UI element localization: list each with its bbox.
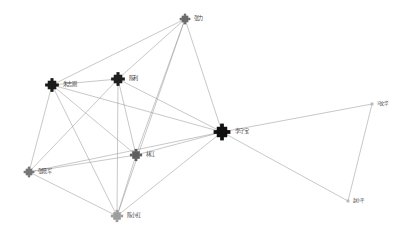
- graph-edge: [117, 79, 118, 216]
- graph-edge: [52, 85, 222, 132]
- graph-node[interactable]: 李守宝: [211, 121, 233, 143]
- node-marker-icon: [369, 101, 375, 107]
- node-marker-icon: [109, 70, 127, 88]
- graph-edge: [117, 132, 222, 216]
- graph-edge: [52, 85, 117, 216]
- graph-node[interactable]: 林江: [128, 147, 144, 163]
- network-graph-canvas: 张力朱志刚陈利李守宝林江张晓军陈小红马文华赵小平: [0, 0, 404, 244]
- graph-edge: [136, 19, 185, 155]
- graph-node[interactable]: 张晓军: [22, 165, 36, 179]
- graph-edge: [52, 85, 136, 155]
- graph-node[interactable]: 赵小平: [345, 198, 351, 204]
- graph-edge: [185, 19, 222, 132]
- graph-edge: [222, 132, 348, 201]
- node-marker-icon: [109, 208, 125, 224]
- node-label: 陈小红: [127, 213, 141, 218]
- node-label: 朱志刚: [63, 82, 77, 87]
- graph-edge: [118, 79, 222, 132]
- graph-node[interactable]: 朱志刚: [43, 76, 61, 94]
- edge-layer: [0, 0, 404, 244]
- graph-node[interactable]: 陈利: [109, 70, 127, 88]
- node-label: 张晓军: [38, 169, 52, 174]
- node-label: 李守宝: [235, 129, 249, 134]
- node-marker-icon: [178, 12, 192, 26]
- graph-edge: [117, 19, 185, 216]
- node-label: 陈利: [129, 76, 139, 81]
- node-marker-icon: [345, 198, 351, 204]
- graph-edge: [29, 172, 117, 216]
- graph-edge: [118, 79, 136, 155]
- graph-edge: [29, 132, 222, 172]
- node-label: 马文华: [377, 102, 388, 106]
- node-label: 林江: [146, 152, 156, 157]
- graph-edge: [29, 85, 52, 172]
- graph-node[interactable]: 张力: [178, 12, 192, 26]
- node-label: 赵小平: [353, 199, 364, 203]
- node-marker-icon: [211, 121, 233, 143]
- graph-edge: [348, 104, 372, 201]
- node-marker-icon: [43, 76, 61, 94]
- graph-edge: [117, 155, 136, 216]
- node-marker-icon: [22, 165, 36, 179]
- graph-node[interactable]: 马文华: [369, 101, 375, 107]
- node-label: 张力: [194, 16, 204, 21]
- graph-node[interactable]: 陈小红: [109, 208, 125, 224]
- node-marker-icon: [128, 147, 144, 163]
- graph-edge: [118, 19, 185, 79]
